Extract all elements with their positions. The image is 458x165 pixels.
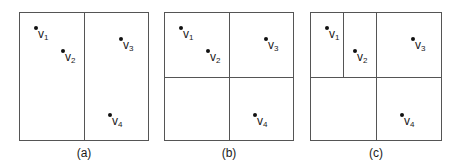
panel-c: v1 v2 v3 v4 [310,12,442,141]
label-v2: v2 [65,51,75,67]
caption-b: (b) [209,146,249,160]
divider-vertical-sub [343,13,344,77]
divider-horizontal [311,77,441,78]
label-v4: v4 [404,115,414,131]
label-v4: v4 [257,115,267,131]
label-v2: v2 [357,51,367,67]
label-v2: v2 [210,51,220,67]
divider-horizontal [165,77,293,78]
label-v4: v4 [112,115,122,131]
label-v1: v1 [329,28,339,44]
label-v1: v1 [38,28,48,44]
label-v3: v3 [268,39,278,55]
label-v3: v3 [415,39,425,55]
panel-b: v1 v2 v3 v4 [164,12,294,141]
caption-c: (c) [356,146,396,160]
label-v3: v3 [123,39,133,55]
panel-a: v1 v2 v3 v4 [19,12,149,141]
label-v1: v1 [183,28,193,44]
divider-vertical [84,13,85,140]
caption-a: (a) [64,146,104,160]
